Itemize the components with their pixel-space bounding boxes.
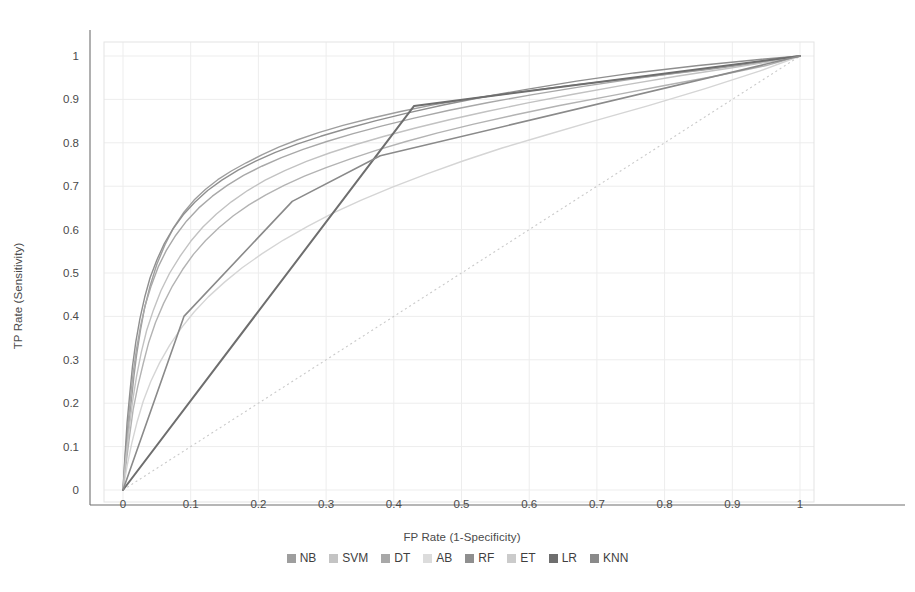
legend-swatch-knn-icon bbox=[590, 554, 599, 563]
legend-label: LR bbox=[562, 552, 577, 564]
y-tick-label-8: 0.8 bbox=[63, 137, 79, 149]
legend-swatch-lr-icon bbox=[549, 554, 558, 563]
y-tick-label-3: 0.3 bbox=[63, 354, 79, 366]
legend-item-rf[interactable]: RF bbox=[465, 552, 494, 564]
legend-item-dt[interactable]: DT bbox=[381, 552, 410, 564]
plot-area-frame bbox=[104, 42, 814, 502]
x-tick-label-1: 0.1 bbox=[183, 498, 199, 510]
legend-item-lr[interactable]: LR bbox=[549, 552, 577, 564]
legend-item-nb[interactable]: NB bbox=[287, 552, 317, 564]
legend-swatch-dt-icon bbox=[381, 554, 390, 563]
x-tick-label-7: 0.7 bbox=[589, 498, 605, 510]
x-axis-title: FP Rate (1-Specificity) bbox=[403, 531, 520, 543]
x-tick-label-0: 0 bbox=[120, 498, 126, 510]
legend-item-knn[interactable]: KNN bbox=[590, 552, 628, 564]
legend-label: SVM bbox=[342, 552, 368, 564]
legend-label: DT bbox=[394, 552, 410, 564]
y-tick-label-10: 1 bbox=[73, 50, 79, 62]
legend-label: AB bbox=[436, 552, 452, 564]
legend-swatch-et-icon bbox=[507, 554, 516, 563]
legend-item-ab[interactable]: AB bbox=[423, 552, 452, 564]
y-tick-label-0: 0 bbox=[73, 484, 79, 496]
y-tick-label-9: 0.9 bbox=[63, 93, 79, 105]
roc-chart-figure: TP Rate (Sensitivity) FP Rate (1-Specifi… bbox=[0, 0, 915, 592]
legend-item-svm[interactable]: SVM bbox=[329, 552, 368, 564]
legend-item-et[interactable]: ET bbox=[507, 552, 535, 564]
legend-swatch-nb-icon bbox=[287, 554, 296, 563]
legend-label: RF bbox=[478, 552, 494, 564]
chart-legend: NBSVMDTABRFETLRKNN bbox=[0, 552, 915, 564]
x-tick-label-10: 1 bbox=[797, 498, 803, 510]
x-tick-label-3: 0.3 bbox=[318, 498, 334, 510]
legend-label: KNN bbox=[603, 552, 628, 564]
y-tick-label-1: 0.1 bbox=[63, 441, 79, 453]
legend-label: ET bbox=[520, 552, 535, 564]
legend-label: NB bbox=[300, 552, 317, 564]
legend-swatch-ab-icon bbox=[423, 554, 432, 563]
y-tick-label-7: 0.7 bbox=[63, 180, 79, 192]
y-axis-title: TP Rate (Sensitivity) bbox=[12, 243, 24, 350]
x-tick-label-4: 0.4 bbox=[386, 498, 402, 510]
x-tick-label-8: 0.8 bbox=[657, 498, 673, 510]
gridlines-group bbox=[104, 42, 814, 502]
y-tick-label-4: 0.4 bbox=[63, 310, 79, 322]
legend-swatch-rf-icon bbox=[465, 554, 474, 563]
x-tick-label-5: 0.5 bbox=[454, 498, 470, 510]
x-tick-label-2: 0.2 bbox=[250, 498, 266, 510]
y-tick-label-5: 0.5 bbox=[63, 267, 79, 279]
x-tick-label-6: 0.6 bbox=[521, 498, 537, 510]
legend-swatch-svm-icon bbox=[329, 554, 338, 563]
y-tick-label-6: 0.6 bbox=[63, 224, 79, 236]
y-tick-label-2: 0.2 bbox=[63, 397, 79, 409]
x-tick-label-9: 0.9 bbox=[724, 498, 740, 510]
